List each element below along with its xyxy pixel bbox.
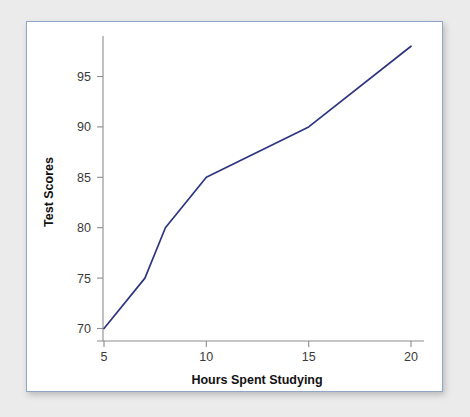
x-axis-title: Hours Spent Studying [191,373,322,387]
chart-card: 70 75 80 85 90 95 5 10 15 20 [26,21,443,392]
x-tick-marks [104,341,411,347]
x-tick-label: 10 [199,350,213,364]
y-tick-label: 85 [77,171,91,185]
data-series-line [104,46,411,328]
x-tick-labels: 5 10 15 20 [101,350,418,364]
y-tick-marks [97,77,103,329]
y-tick-label: 95 [77,70,91,84]
y-tick-label: 75 [77,272,91,286]
y-tick-labels: 70 75 80 85 90 95 [77,70,91,336]
x-tick-label: 20 [404,350,418,364]
x-tick-label: 5 [101,350,108,364]
y-tick-label: 80 [77,221,91,235]
y-tick-label: 90 [77,120,91,134]
line-chart-plot: 70 75 80 85 90 95 5 10 15 20 [27,22,442,391]
x-tick-label: 15 [302,350,316,364]
y-axis-title: Test Scores [42,157,56,227]
y-tick-label: 70 [77,322,91,336]
figure-root: 70 75 80 85 90 95 5 10 15 20 [0,0,470,417]
